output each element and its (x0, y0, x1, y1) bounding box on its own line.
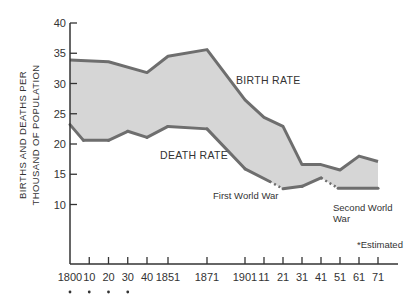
x-tick-label: 30 (122, 271, 134, 283)
y-tick-label: 25 (54, 108, 66, 120)
y-tick-label: 35 (54, 47, 66, 59)
y-tick-label: 10 (54, 199, 66, 211)
estimated-marker (126, 291, 129, 294)
x-tick-label: 21 (277, 271, 289, 283)
x-tick-label: 51 (334, 271, 346, 283)
second-world-war-label-line1: Second World (333, 202, 393, 213)
y-tick-label: 30 (54, 78, 66, 90)
y-axis-label-line1: BIRTHS AND DEATHS PER (17, 71, 28, 199)
y-tick-label: 20 (54, 138, 66, 150)
estimated-marker (107, 291, 110, 294)
y-axis-ticks: 10152025303540 (54, 17, 77, 211)
x-tick-label: 1851 (156, 271, 180, 283)
y-axis-label-line2: THOUSAND OF POPULATION (30, 64, 41, 205)
y-tick-label: 40 (54, 17, 66, 29)
birth-death-rate-chart: 10152025303540 1800102030401851187119011… (0, 0, 417, 301)
x-tick-label: 31 (296, 271, 308, 283)
x-axis-ticks: 18001020304018511871190111213141516171 (58, 257, 384, 293)
first-world-war-label: First World War (213, 190, 278, 201)
x-tick-label: 40 (141, 271, 153, 283)
second-world-war-label-line2: War (333, 213, 350, 224)
x-tick-label: 1871 (195, 271, 219, 283)
x-tick-label: 61 (353, 271, 365, 283)
x-tick-label: 10 (83, 271, 95, 283)
estimated-footnote: *Estimated (357, 239, 403, 250)
x-tick-label: 71 (372, 271, 384, 283)
estimated-marker (88, 291, 91, 294)
estimated-marker (69, 291, 72, 294)
x-tick-label: 20 (102, 271, 114, 283)
y-tick-label: 15 (54, 168, 66, 180)
x-tick-label: 11 (258, 271, 269, 283)
birth-rate-label: BIRTH RATE (236, 74, 300, 86)
x-tick-label: 41 (315, 271, 327, 283)
x-tick-label: 1901 (233, 271, 257, 283)
x-tick-label: 1800 (58, 271, 82, 283)
death-rate-label: DEATH RATE (160, 149, 228, 161)
